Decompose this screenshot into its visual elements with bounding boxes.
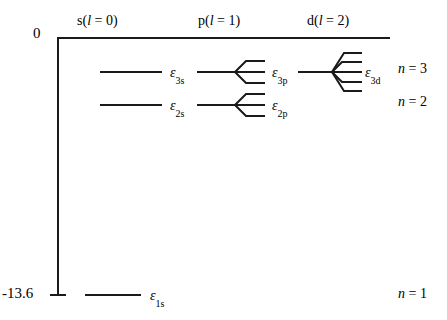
axis-label-minus-13-6: -13.6	[2, 286, 33, 301]
axis-label-zero: 0	[33, 26, 41, 41]
level-label-3d-subscript: 3d	[371, 75, 381, 86]
level-label-2s-subscript: 2s	[176, 108, 185, 119]
level-label-1s: ε1s	[150, 289, 164, 306]
energy-axis-vertical	[57, 37, 59, 295]
shell-label-n3: n = 3	[398, 62, 427, 76]
energy-level-2s	[100, 104, 162, 106]
column-header-p-letter: p	[198, 13, 205, 28]
energy-level-3d-fork	[331, 51, 363, 93]
column-header-p-value: = 1)	[214, 13, 241, 28]
level-label-2p: ε2p	[272, 99, 288, 116]
shell-label-n3-value: = 3	[405, 61, 427, 76]
column-header-s: s(l = 0)	[77, 14, 118, 28]
energy-level-3p-fork	[234, 57, 266, 87]
level-label-3s-symbol: ε	[170, 65, 176, 80]
level-label-1s-symbol: ε	[150, 288, 156, 303]
level-label-1s-subscript: 1s	[156, 298, 165, 309]
energy-level-2p-fork	[234, 90, 266, 120]
shell-label-n2-value: = 2	[405, 94, 427, 109]
energy-level-3p-stem	[197, 71, 235, 73]
level-label-3p-symbol: ε	[272, 65, 278, 80]
energy-level-2p-stem	[197, 104, 235, 106]
shell-label-n1: n = 1	[398, 287, 427, 301]
energy-level-3s	[100, 71, 162, 73]
shell-label-n2-symbol: n	[398, 94, 405, 109]
zero-energy-line	[57, 37, 390, 39]
level-label-3s: ε3s	[170, 66, 184, 83]
shell-label-n1-symbol: n	[398, 286, 405, 301]
column-header-d: d(l = 2)	[307, 14, 349, 28]
energy-level-diagram: 0 -13.6 s(l = 0) p(l = 1) d(l = 2) ε3s ε…	[0, 0, 447, 320]
column-header-d-value: = 2)	[323, 13, 350, 28]
level-label-2p-symbol: ε	[272, 98, 278, 113]
shell-label-n3-symbol: n	[398, 61, 405, 76]
column-header-p: p(l = 1)	[198, 14, 240, 28]
shell-label-n1-value: = 1	[405, 286, 427, 301]
energy-level-3d-stem	[298, 71, 332, 73]
shell-label-n2: n = 2	[398, 95, 427, 109]
column-header-d-letter: d	[307, 13, 314, 28]
level-label-3d-symbol: ε	[365, 65, 371, 80]
level-label-3d: ε3d	[365, 66, 381, 83]
level-label-3s-subscript: 3s	[176, 75, 185, 86]
level-label-2s: ε2s	[170, 99, 184, 116]
energy-level-1s	[85, 294, 141, 296]
column-header-s-value: = 0)	[91, 13, 118, 28]
level-label-3p: ε3p	[272, 66, 288, 83]
level-label-2p-subscript: 2p	[278, 108, 288, 119]
level-label-3p-subscript: 3p	[278, 75, 288, 86]
axis-tick-bottom	[50, 294, 66, 296]
level-label-2s-symbol: ε	[170, 98, 176, 113]
